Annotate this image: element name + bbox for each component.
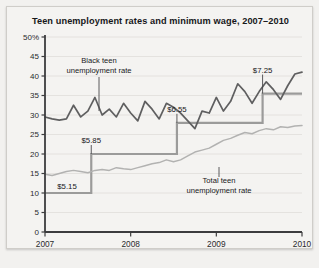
y-tick-label: 0 [35,228,40,237]
wage-label-5-85: $5.85 [82,136,102,145]
plot-area: 50%4540353025201510502007200820092010Bla… [7,7,314,250]
y-tick-label: 15 [30,169,39,178]
y-tick-label: 30 [30,111,39,120]
y-tick-label: 5 [35,208,40,217]
black-teen-annotation-line2: unemployment rate [66,66,131,75]
y-tick-label: 50% [23,33,39,42]
x-tick-label: 2008 [121,239,140,249]
total-teen-annotation-line1: Total teen [203,176,236,185]
x-tick-label: 2010 [293,239,312,249]
black-teen-annotation-line1: Black teen [81,56,116,65]
chart-svg: 50%4540353025201510502007200820092010Bla… [7,7,314,250]
y-tick-label: 25 [30,130,39,139]
x-tick-label: 2007 [36,239,55,249]
figure-container: Teen unemployment rates and minimum wage… [0,0,319,268]
y-tick-label: 35 [30,91,39,100]
wage-label-7-25: $7.25 [253,66,273,75]
chart-panel: Teen unemployment rates and minimum wage… [6,6,313,249]
total-teen-annotation-line2: unemployment rate [186,186,251,195]
y-tick-label: 20 [30,150,39,159]
y-tick-label: 45 [30,52,39,61]
y-tick-label: 10 [30,189,39,198]
x-tick-label: 2009 [207,239,226,249]
series-total-teen-line [45,126,302,176]
wage-label-5-15: $5.15 [57,182,77,191]
y-tick-label: 40 [30,72,39,81]
wage-label-6-55: $6.55 [167,105,187,114]
